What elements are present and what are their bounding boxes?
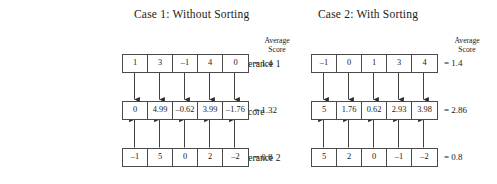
cell: –1.76 <box>223 102 248 119</box>
cell: –0.62 <box>173 102 198 119</box>
cell: 0 <box>337 55 362 72</box>
cell: 2 <box>337 149 362 166</box>
average-score-line-1: Average <box>250 36 304 45</box>
case-2-title: Case 2: With Sorting <box>318 8 418 20</box>
cell: 0 <box>123 102 148 119</box>
average-score-line-2: Score <box>250 45 304 54</box>
case-2-panel: Case 2: With Sorting <box>300 0 497 184</box>
case-1-panel: Case 1: Without Sorting Score of Utteran… <box>0 0 300 184</box>
score-fusion-diagram: Case 1: Without Sorting Score of Utteran… <box>0 0 497 184</box>
case-1-row-fused-score: 0 4.99 –0.62 3.99 –1.76 <box>122 101 249 120</box>
cell: 4 <box>412 55 437 72</box>
case-2-row-score-of-utterance-1: –1 0 1 3 4 <box>311 54 438 73</box>
cell: 0.62 <box>362 102 387 119</box>
case-2-average-score-utterance-2: = 0.8 <box>444 152 497 162</box>
cell: 4.99 <box>148 102 173 119</box>
cell: 3 <box>387 55 412 72</box>
cell: –1 <box>173 55 198 72</box>
cell: 3 <box>148 55 173 72</box>
cell: 5 <box>148 149 173 166</box>
case-1-title: Case 1: Without Sorting <box>134 8 249 20</box>
case-1-average-score-header: Average Score <box>250 36 304 55</box>
cell: 0 <box>173 149 198 166</box>
cell: –1 <box>312 55 337 72</box>
cell: 3.99 <box>198 102 223 119</box>
cell: –2 <box>412 149 437 166</box>
cell: 1 <box>123 55 148 72</box>
cell: 0 <box>362 149 387 166</box>
cell: –2 <box>223 149 248 166</box>
cell: 5 <box>312 149 337 166</box>
case-2-average-score-utterance-1: = 1.4 <box>444 58 497 68</box>
cell: –1 <box>123 149 148 166</box>
cell: 3.98 <box>412 102 437 119</box>
case-1-row-score-of-utterance-2: –1 5 0 2 –2 <box>122 148 249 167</box>
average-score-line-2: Score <box>440 45 494 54</box>
case-2-average-score-header: Average Score <box>440 36 494 55</box>
cell: –1 <box>387 149 412 166</box>
cell: 5 <box>312 102 337 119</box>
cell: 0 <box>223 55 248 72</box>
cell: 2 <box>198 149 223 166</box>
average-score-line-1: Average <box>440 36 494 45</box>
cell: 1 <box>362 55 387 72</box>
case-2-row-score-of-utterance-2: 5 2 0 –1 –2 <box>311 148 438 167</box>
case-1-row-score-of-utterance-1: 1 3 –1 4 0 <box>122 54 249 73</box>
cell: 2.93 <box>387 102 412 119</box>
case-2-row-fused-score: 5 1.76 0.62 2.93 3.98 <box>311 101 438 120</box>
case-2-average-score-fused: = 2.86 <box>444 105 497 115</box>
cell: 1.76 <box>337 102 362 119</box>
cell: 4 <box>198 55 223 72</box>
